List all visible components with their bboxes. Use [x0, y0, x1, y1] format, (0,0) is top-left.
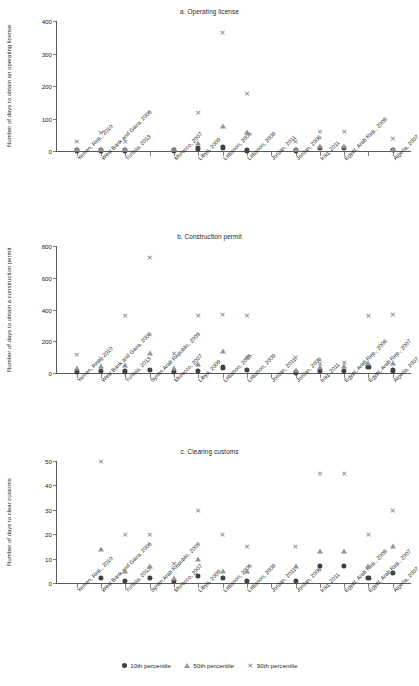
circle-marker — [220, 365, 225, 370]
x-tick — [150, 152, 151, 156]
triangle-marker — [365, 563, 371, 568]
triangle-marker — [74, 366, 80, 371]
cross-marker — [170, 146, 177, 153]
y-axis-label: Number of days to obtain an operating li… — [6, 21, 12, 151]
triangle-marker — [293, 368, 299, 373]
circle-marker — [220, 576, 225, 581]
cross-marker — [292, 543, 299, 550]
legend-label: 90th percentile — [257, 662, 298, 669]
y-axis-label: Number of days to obtain a construction … — [6, 246, 12, 373]
y-tick — [53, 373, 56, 374]
cross-marker — [316, 470, 323, 477]
cross-marker — [195, 506, 202, 513]
triangle-marker — [171, 366, 177, 371]
y-axis-line — [56, 461, 57, 583]
triangle-marker — [122, 363, 128, 368]
cross-marker — [195, 109, 202, 116]
cross-marker — [219, 29, 226, 36]
legend-label: 10th percentile — [130, 662, 171, 669]
legend-item: ×90th percentile — [247, 662, 297, 670]
triangle-marker — [341, 549, 347, 554]
triangle-marker — [195, 556, 201, 561]
y-tick-label: 200 — [30, 83, 52, 90]
y-tick — [53, 485, 56, 486]
y-tick — [53, 559, 56, 560]
chart-legend: 10th percentile50th percentile×90th perc… — [0, 662, 419, 670]
triangle-marker — [220, 568, 226, 573]
y-tick-label: 50 — [30, 458, 52, 465]
triangle-marker — [98, 147, 104, 152]
cross-marker — [219, 311, 226, 318]
y-tick — [53, 534, 56, 535]
triangle-marker — [195, 361, 201, 366]
cross-marker — [170, 350, 177, 357]
cross-marker — [243, 311, 250, 318]
y-tick — [53, 151, 56, 152]
triangle-marker — [98, 363, 104, 368]
y-tick-label: 300 — [30, 50, 52, 57]
cross-marker — [389, 506, 396, 513]
triangle-marker — [365, 361, 371, 366]
triangle-marker — [390, 146, 396, 151]
cross-marker — [365, 311, 372, 318]
x-tick-label: Egypt, Arab Rep., 2008 — [343, 548, 388, 593]
legend-item: 10th percentile — [122, 662, 171, 669]
circle-marker — [244, 367, 249, 372]
y-tick — [53, 21, 56, 22]
triangle-marker — [390, 544, 396, 549]
triangle-marker — [147, 563, 153, 568]
circle-marker — [98, 576, 103, 581]
triangle-marker — [122, 568, 128, 573]
cross-marker — [243, 89, 250, 96]
y-tick-label: 200 — [30, 338, 52, 345]
cross-marker — [316, 360, 323, 367]
x-tick-label: Egypt, Arab Rep., 2008 — [343, 116, 388, 161]
circle-marker — [342, 563, 347, 568]
cross-marker — [97, 128, 104, 135]
cross-marker — [243, 543, 250, 550]
chart-panel-a: a. Operating licenseNumber of days to ob… — [0, 8, 419, 243]
panel-title: c. Clearing customs — [0, 448, 419, 455]
x-tick-label: Algeria, 2007 — [392, 356, 419, 384]
y-tick — [53, 278, 56, 279]
circle-marker — [220, 145, 225, 150]
x-tick-label: Jordan, 2006 — [295, 566, 322, 593]
y-tick-label: 400 — [30, 18, 52, 25]
y-tick-label: 40 — [30, 482, 52, 489]
triangle-marker — [171, 576, 177, 581]
x-tick — [368, 152, 369, 156]
legend-item: 50th percentile — [184, 662, 234, 669]
cross-marker — [170, 560, 177, 567]
triangle-marker — [122, 147, 128, 152]
circle-marker — [122, 663, 127, 668]
y-tick-label: 10 — [30, 555, 52, 562]
y-tick — [53, 246, 56, 247]
cross-marker — [195, 312, 202, 319]
y-tick — [53, 119, 56, 120]
y-tick — [53, 510, 56, 511]
triangle-marker — [195, 140, 201, 145]
cross-marker — [316, 127, 323, 134]
cross-marker — [122, 138, 129, 145]
circle-marker — [147, 367, 152, 372]
cross-marker — [97, 354, 104, 361]
cross-marker — [146, 254, 153, 261]
triangle-marker — [293, 147, 299, 152]
legend-label: 50th percentile — [193, 662, 234, 669]
triangle-marker — [244, 568, 250, 573]
y-tick-label: 100 — [30, 115, 52, 122]
y-tick-label: 20 — [30, 531, 52, 538]
panel-title: b. Construction permit — [0, 233, 419, 240]
triangle-marker — [98, 546, 104, 551]
cross-marker — [341, 470, 348, 477]
circle-marker — [317, 563, 322, 568]
y-tick-label: 0 — [30, 580, 52, 587]
cross-marker — [341, 358, 348, 365]
cross-marker — [365, 531, 372, 538]
circle-marker — [244, 148, 249, 153]
y-tick — [53, 86, 56, 87]
y-tick — [53, 310, 56, 311]
triangle-marker — [317, 549, 323, 554]
triangle-marker — [341, 144, 347, 149]
chart-panel-b: b. Construction permitNumber of days to … — [0, 233, 419, 465]
